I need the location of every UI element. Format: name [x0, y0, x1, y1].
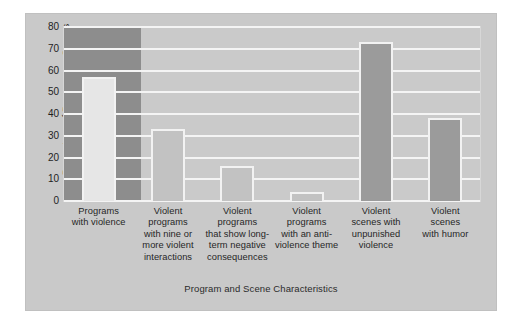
gridline-70 — [64, 48, 480, 50]
gridline-60 — [64, 70, 480, 72]
category-label-line: with humor — [404, 229, 487, 240]
y-tick-label-50: 50 — [48, 87, 59, 97]
gridline-20 — [64, 157, 480, 159]
x-axis-title: Program and Scene Characteristics — [26, 283, 496, 294]
gridline-80 — [64, 26, 480, 28]
category-label-line: violence — [334, 240, 417, 251]
category-label-line: Violent — [404, 206, 487, 217]
bar-2 — [220, 166, 254, 201]
category-label-5: Violentsceneswith humor — [404, 206, 487, 240]
x-axis-category-labels: Programswith violenceViolentprogramswith… — [64, 206, 480, 276]
category-label-line: consequences — [196, 252, 279, 263]
gridline-40 — [64, 113, 480, 115]
bar-0 — [82, 77, 116, 201]
y-tick-label-30: 30 — [48, 131, 59, 141]
plot-area: 01020304050607080 — [64, 27, 480, 201]
y-tick-label-40: 40 — [48, 109, 59, 119]
bar-5 — [428, 118, 462, 201]
y-tick-label-70: 70 — [48, 44, 59, 54]
category-label-line: scenes — [404, 217, 487, 228]
gridline-10 — [64, 178, 480, 180]
bar-3 — [290, 192, 324, 201]
bar-1 — [151, 129, 185, 201]
chart-figure: Percentage of Programs or Scenes 0102030… — [0, 0, 522, 324]
y-tick-label-0: 0 — [53, 196, 59, 206]
gridline-50 — [64, 91, 480, 93]
bar-4 — [359, 42, 393, 201]
gridline-30 — [64, 135, 480, 137]
y-tick-label-10: 10 — [48, 174, 59, 184]
y-tick-label-60: 60 — [48, 66, 59, 76]
y-tick-label-80: 80 — [48, 22, 59, 32]
chart-plate: Percentage of Programs or Scenes 0102030… — [26, 14, 496, 310]
y-tick-label-20: 20 — [48, 153, 59, 163]
gridline-0 — [64, 200, 480, 202]
